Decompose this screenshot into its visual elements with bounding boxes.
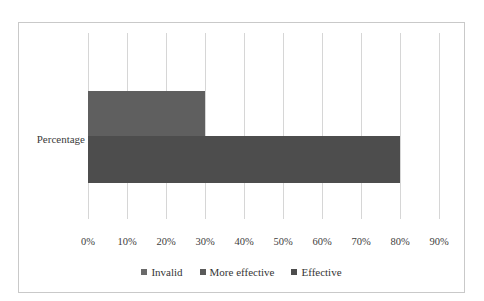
bar-segment <box>88 91 205 136</box>
gridline <box>439 33 440 219</box>
legend-label: Invalid <box>151 266 182 278</box>
x-axis-tick-label: 10% <box>107 236 147 247</box>
legend-label: Effective <box>301 266 341 278</box>
legend-swatch-icon <box>141 269 147 275</box>
x-axis-tick-label: 30% <box>185 236 225 247</box>
gridline <box>400 33 401 219</box>
y-axis-category-label: Percentage <box>19 133 85 146</box>
chart-container: Percentage 0%10%20%30%40%50%60%70%80%90%… <box>18 22 465 293</box>
x-axis-tick-label: 60% <box>302 236 342 247</box>
x-axis-tick-label: 0% <box>68 236 108 247</box>
plot-area <box>88 33 439 219</box>
x-axis-tick-label: 90% <box>419 236 459 247</box>
legend-item[interactable]: More effective <box>200 266 275 278</box>
bar-segment <box>88 136 400 183</box>
legend-item[interactable]: Effective <box>291 266 341 278</box>
gridline <box>283 33 284 219</box>
x-axis-tick-label: 50% <box>263 236 303 247</box>
x-axis-tick-label: 40% <box>224 236 264 247</box>
x-axis-tick-label: 80% <box>380 236 420 247</box>
legend-swatch-icon <box>200 269 206 275</box>
legend-swatch-icon <box>291 269 297 275</box>
chart-legend: InvalidMore effectiveEffective <box>19 266 464 278</box>
gridline <box>244 33 245 219</box>
gridline <box>361 33 362 219</box>
gridline <box>205 33 206 219</box>
gridline <box>322 33 323 219</box>
x-axis-tick-label: 70% <box>341 236 381 247</box>
x-axis-tick-label: 20% <box>146 236 186 247</box>
legend-label: More effective <box>210 266 275 278</box>
legend-item[interactable]: Invalid <box>141 266 182 278</box>
x-axis-tick-labels: 0%10%20%30%40%50%60%70%80%90% <box>88 236 439 252</box>
